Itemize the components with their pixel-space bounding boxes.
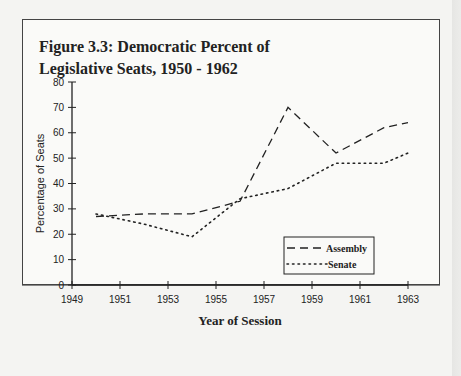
x-tick-label: 1963 (397, 294, 420, 305)
series-assembly-line (96, 107, 408, 216)
legend-assembly-label: Assembly (326, 243, 367, 254)
axes: 0102030405060708019491951195319551957195… (34, 77, 420, 329)
y-tick-label: 50 (53, 153, 65, 164)
x-tick-label: 1957 (253, 294, 276, 305)
y-tick-label: 30 (53, 203, 65, 214)
y-tick-label: 0 (58, 280, 64, 291)
series-lines (96, 107, 408, 236)
y-tick-label: 70 (53, 102, 65, 113)
y-tick-label: 20 (53, 229, 65, 240)
y-tick-label: 10 (53, 254, 65, 265)
y-tick-label: 60 (53, 127, 65, 138)
x-tick-label: 1955 (205, 294, 228, 305)
x-tick-label: 1951 (109, 294, 132, 305)
legend-senate-label: Senate (328, 259, 357, 270)
x-tick-label: 1949 (61, 294, 84, 305)
x-tick-label: 1961 (349, 294, 372, 305)
x-tick-label: 1953 (157, 294, 180, 305)
series-senate-line (96, 153, 408, 237)
x-axis-title: Year of Session (198, 313, 282, 328)
x-tick-label: 1959 (301, 294, 324, 305)
legend: AssemblySenate (284, 237, 374, 274)
y-axis-title: Percentage of Seats (34, 133, 46, 233)
y-tick-label: 80 (53, 77, 65, 88)
y-tick-label: 40 (53, 178, 65, 189)
line-chart: 0102030405060708019491951195319551957195… (0, 0, 461, 376)
